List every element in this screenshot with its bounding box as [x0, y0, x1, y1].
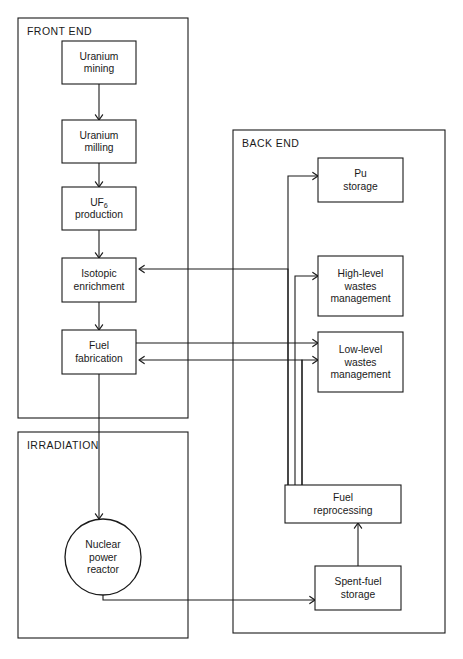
group-label-back-end: BACK END [242, 137, 299, 149]
fuel-cycle-canvas: UraniumminingUraniummillingUF6production… [0, 0, 463, 659]
node-label-low-level-wastes-line3: management [330, 369, 390, 380]
fuel-cycle-diagram: UraniumminingUraniummillingUF6production… [0, 0, 463, 659]
node-label-uranium-mining-line1: Uranium [80, 51, 119, 62]
node-high-level-wastes[interactable]: High-levelwastesmanagement [318, 256, 403, 316]
node-low-level-wastes[interactable]: Low-levelwastesmanagement [318, 332, 403, 392]
node-uf6-production[interactable]: UF6production [62, 187, 136, 230]
node-isotopic-enrichment[interactable]: Isotopicenrichment [62, 258, 136, 302]
node-label-high-level-wastes-line3: management [330, 293, 390, 304]
edge-reprocessing-to-pu-storage [288, 176, 318, 485]
node-label-high-level-wastes-line2: wastes [343, 281, 376, 292]
edge-reactor-to-spent-fuel [103, 595, 315, 600]
edge-reprocessing-to-enrichment [139, 269, 288, 485]
node-label-spent-fuel-storage-line1: Spent-fuel [335, 576, 382, 587]
node-label-isotopic-enrichment-line2: enrichment [74, 281, 125, 292]
node-label-low-level-wastes-line1: Low-level [339, 344, 383, 355]
node-label-uranium-mining-line2: mining [84, 63, 115, 74]
node-label-uranium-milling-line1: Uranium [80, 130, 119, 141]
node-fuel-fabrication[interactable]: Fuelfabrication [62, 330, 136, 374]
edge-reprocessing-to-high-level [295, 276, 318, 485]
node-label-fuel-fabrication-line1: Fuel [89, 340, 109, 351]
edge-reprocessing-to-low-level [302, 360, 318, 485]
node-label-high-level-wastes-line1: High-level [338, 268, 384, 279]
node-label-pu-storage-line1: Pu [354, 168, 367, 179]
group-label-irradiation: IRRADIATION [27, 439, 99, 451]
node-uranium-milling[interactable]: Uraniummilling [62, 120, 136, 163]
node-nuclear-power-reactor[interactable]: Nuclearpowerreactor [65, 519, 141, 595]
node-label-spent-fuel-storage-line2: storage [341, 589, 376, 600]
node-label-nuclear-power-reactor-line1: Nuclear [85, 539, 121, 550]
node-label-fuel-fabrication-line2: fabrication [75, 353, 123, 364]
node-label-nuclear-power-reactor-line2: power [89, 552, 118, 563]
node-label-fuel-reprocessing-line2: reprocessing [314, 505, 373, 516]
group-labels-layer: FRONT ENDBACK ENDIRRADIATION [27, 25, 299, 451]
node-label-nuclear-power-reactor-line3: reactor [87, 564, 120, 575]
node-label-uf6-production-line2: production [75, 209, 123, 220]
group-label-front-end: FRONT END [27, 25, 92, 37]
node-uranium-mining[interactable]: Uraniummining [62, 41, 136, 84]
node-fuel-reprocessing[interactable]: Fuelreprocessing [285, 485, 401, 523]
node-label-fuel-reprocessing-line1: Fuel [333, 492, 353, 503]
node-pu-storage[interactable]: Pustorage [318, 158, 403, 202]
node-label-uranium-milling-line2: milling [84, 142, 113, 153]
node-label-isotopic-enrichment-line1: Isotopic [81, 268, 117, 279]
node-label-low-level-wastes-line2: wastes [343, 357, 376, 368]
node-spent-fuel-storage[interactable]: Spent-fuelstorage [315, 566, 401, 610]
edge-reprocessing-to-fabrication [139, 360, 302, 485]
node-label-pu-storage-line2: storage [343, 181, 378, 192]
